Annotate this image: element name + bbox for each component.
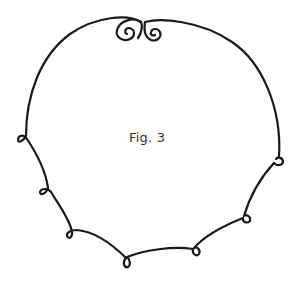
center-curl — [138, 22, 142, 38]
loop-2 — [40, 188, 72, 231]
loop-5 — [193, 218, 243, 255]
loop-1 — [18, 136, 48, 188]
scroll-ornament — [117, 20, 161, 41]
outline-left-arc — [26, 18, 141, 136]
loops-edge — [18, 136, 283, 267]
loop-7 — [274, 157, 283, 165]
outline-right-arc — [145, 20, 279, 157]
right-spiral — [145, 22, 161, 40]
loop-6 — [243, 163, 274, 222]
loop-4 — [124, 248, 193, 267]
figure-caption: Fig. 3 — [129, 130, 165, 145]
left-spiral — [117, 20, 141, 40]
loop-3 — [67, 230, 126, 258]
